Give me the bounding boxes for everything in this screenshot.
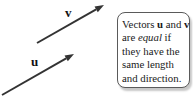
vector-v-arrowhead-icon [95,5,104,12]
vector-v-label: v [65,5,72,20]
callout-box: Vectors u and vare equal ifthey have the… [117,12,190,88]
callout-line: Vectors u and v [122,18,187,31]
callout-line: same length [122,58,187,71]
callout-line: are equal if [122,31,187,44]
vector-u-arrowhead-icon [65,54,74,61]
callout-text: Vectors u and vare equal ifthey have the… [122,18,187,85]
vector-equality-figure: vu Vectors u and vare equal ifthey have … [0,0,193,96]
callout-line: and direction. [122,72,187,85]
callout-line: they have the [122,45,187,58]
vector-u-label: u [31,54,38,69]
